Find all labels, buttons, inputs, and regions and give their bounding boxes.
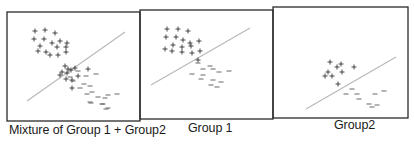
plus-point bbox=[174, 35, 179, 40]
plus-point bbox=[164, 35, 169, 40]
plus-point bbox=[33, 29, 38, 34]
panel-group2 bbox=[273, 7, 408, 118]
plus-point bbox=[48, 53, 53, 58]
panel-frame bbox=[140, 10, 273, 119]
label-group2: Group2 bbox=[334, 118, 375, 132]
plus-point bbox=[352, 65, 357, 70]
plus-point bbox=[330, 74, 335, 79]
plus-point bbox=[335, 65, 340, 70]
plus-point bbox=[42, 37, 47, 42]
plus-point bbox=[64, 50, 69, 55]
plus-point bbox=[56, 53, 61, 58]
plus-point bbox=[53, 31, 58, 36]
plus-point bbox=[44, 50, 49, 55]
plus-point bbox=[38, 44, 43, 49]
plus-point bbox=[163, 47, 168, 52]
plus-point bbox=[196, 58, 201, 63]
plus-point bbox=[70, 86, 75, 91]
panel-group1 bbox=[140, 10, 273, 119]
panel-frame bbox=[7, 12, 140, 121]
plus-point bbox=[323, 74, 328, 79]
plus-point bbox=[64, 45, 69, 50]
plus-point bbox=[190, 51, 195, 56]
separating-line bbox=[27, 32, 125, 101]
plus-point bbox=[165, 27, 170, 32]
panel-frame bbox=[273, 7, 408, 118]
plus-point bbox=[188, 41, 193, 46]
plus-point bbox=[65, 41, 70, 46]
label-group1: Group 1 bbox=[188, 121, 232, 135]
plus-point bbox=[32, 37, 37, 42]
plus-point bbox=[50, 41, 55, 46]
plus-point bbox=[170, 49, 175, 54]
plus-point bbox=[198, 49, 203, 54]
plus-point bbox=[189, 44, 194, 49]
label-mixture: Mixture of Group 1 + Group2 bbox=[9, 123, 166, 137]
plus-point bbox=[197, 39, 202, 44]
plus-point bbox=[70, 78, 75, 83]
separating-line bbox=[306, 57, 396, 109]
plus-point bbox=[328, 60, 333, 65]
plus-point bbox=[326, 70, 331, 75]
plus-point bbox=[339, 62, 344, 67]
plus-point bbox=[171, 43, 176, 48]
plus-point bbox=[180, 45, 185, 50]
plus-point bbox=[180, 50, 185, 55]
figure: Mixture of Group 1 + Group2 Group 1 Grou… bbox=[0, 0, 414, 144]
plus-point bbox=[181, 38, 186, 43]
plus-point bbox=[58, 39, 63, 44]
plus-point bbox=[43, 28, 48, 33]
plus-point bbox=[63, 64, 68, 69]
plus-point bbox=[336, 82, 341, 87]
plus-point bbox=[186, 29, 191, 34]
plus-point bbox=[55, 45, 60, 50]
plus-point bbox=[86, 67, 91, 72]
plus-point bbox=[76, 74, 81, 79]
plus-point bbox=[36, 49, 41, 54]
plus-point bbox=[176, 27, 181, 32]
plus-point bbox=[340, 70, 345, 75]
panel-mixture bbox=[7, 12, 140, 121]
